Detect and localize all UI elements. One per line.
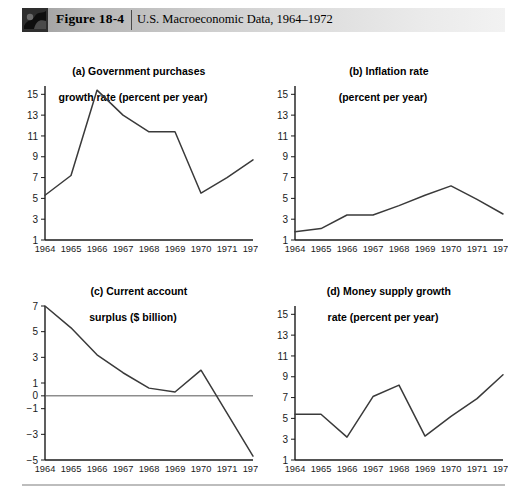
svg-text:3: 3 bbox=[282, 434, 288, 445]
svg-text:1966: 1966 bbox=[337, 464, 358, 474]
svg-text:5: 5 bbox=[282, 193, 288, 204]
svg-text:9: 9 bbox=[282, 371, 288, 382]
svg-text:5: 5 bbox=[32, 193, 38, 204]
chart-panel-d: (d) Money supply growth rate (percent pe… bbox=[258, 272, 508, 482]
figure-caption: U.S. Macroeconomic Data, 1964–1972 bbox=[137, 12, 333, 27]
svg-text:1966: 1966 bbox=[87, 244, 108, 254]
svg-text:13: 13 bbox=[27, 110, 39, 121]
chart-panel-a: (a) Government purchases growth rate (pe… bbox=[8, 52, 258, 262]
chart-panel-c: (c) Current account surplus ($ billion) … bbox=[8, 272, 258, 482]
svg-text:11: 11 bbox=[28, 131, 39, 142]
svg-text:1965: 1965 bbox=[61, 464, 82, 474]
svg-text:1965: 1965 bbox=[311, 244, 332, 254]
svg-text:1966: 1966 bbox=[87, 464, 108, 474]
svg-text:1969: 1969 bbox=[415, 464, 436, 474]
svg-text:1971: 1971 bbox=[217, 244, 238, 254]
footer-rule bbox=[22, 484, 505, 486]
svg-text:1969: 1969 bbox=[415, 244, 436, 254]
chart-plot-d: 1357911131519641965196619671968196919701… bbox=[258, 300, 508, 482]
svg-text:7: 7 bbox=[32, 301, 38, 312]
svg-text:7: 7 bbox=[282, 172, 288, 183]
svg-text:3: 3 bbox=[282, 214, 288, 225]
figure-label: Figure 18-4 bbox=[56, 11, 124, 27]
svg-text:7: 7 bbox=[282, 392, 288, 403]
svg-text:15: 15 bbox=[277, 309, 289, 320]
svg-text:1964: 1964 bbox=[35, 244, 56, 254]
svg-text:1967: 1967 bbox=[113, 464, 134, 474]
svg-text:1966: 1966 bbox=[337, 244, 358, 254]
svg-text:0: 0 bbox=[32, 390, 38, 401]
svg-text:−1: −1 bbox=[27, 403, 39, 414]
svg-text:1968: 1968 bbox=[139, 244, 160, 254]
svg-text:1965: 1965 bbox=[61, 244, 82, 254]
svg-text:3: 3 bbox=[32, 352, 38, 363]
svg-text:7: 7 bbox=[32, 172, 38, 183]
svg-text:1971: 1971 bbox=[467, 244, 488, 254]
svg-text:11: 11 bbox=[278, 131, 289, 142]
chart-title-a-line1: (a) Government purchases bbox=[72, 65, 205, 77]
chart-title-b-line1: (b) Inflation rate bbox=[349, 65, 428, 77]
svg-text:1972: 1972 bbox=[493, 244, 508, 254]
svg-text:1965: 1965 bbox=[311, 464, 332, 474]
header-divider bbox=[131, 10, 132, 30]
svg-text:1972: 1972 bbox=[493, 464, 508, 474]
svg-text:1972: 1972 bbox=[243, 244, 258, 254]
svg-text:9: 9 bbox=[282, 151, 288, 162]
svg-text:9: 9 bbox=[32, 151, 38, 162]
chart-title-c-line1: (c) Current account bbox=[90, 285, 187, 297]
svg-text:1971: 1971 bbox=[467, 464, 488, 474]
svg-text:1967: 1967 bbox=[113, 244, 134, 254]
svg-text:11: 11 bbox=[278, 351, 289, 362]
svg-text:1964: 1964 bbox=[285, 464, 306, 474]
svg-text:1967: 1967 bbox=[363, 464, 384, 474]
svg-text:1970: 1970 bbox=[441, 244, 462, 254]
svg-text:1968: 1968 bbox=[389, 464, 410, 474]
svg-text:1970: 1970 bbox=[191, 244, 212, 254]
svg-text:1970: 1970 bbox=[191, 464, 212, 474]
chart-plot-b: 1357911131519641965196619671968196919701… bbox=[258, 80, 508, 262]
svg-text:3: 3 bbox=[32, 214, 38, 225]
svg-text:13: 13 bbox=[277, 110, 289, 121]
svg-text:1971: 1971 bbox=[217, 464, 238, 474]
svg-text:1967: 1967 bbox=[363, 244, 384, 254]
chart-title-d-line1: (d) Money supply growth bbox=[327, 285, 451, 297]
chart-plot-a: 1357911131519641965196619671968196919701… bbox=[8, 80, 258, 262]
svg-text:1968: 1968 bbox=[139, 464, 160, 474]
svg-text:−3: −3 bbox=[27, 429, 39, 440]
svg-text:1968: 1968 bbox=[389, 244, 410, 254]
svg-text:15: 15 bbox=[27, 89, 39, 100]
svg-text:1: 1 bbox=[32, 378, 38, 389]
svg-text:15: 15 bbox=[277, 89, 289, 100]
chart-panel-b: (b) Inflation rate (percent per year) 13… bbox=[258, 52, 508, 262]
svg-text:1970: 1970 bbox=[441, 464, 462, 474]
svg-text:1964: 1964 bbox=[35, 464, 56, 474]
svg-text:5: 5 bbox=[32, 326, 38, 337]
svg-text:13: 13 bbox=[277, 330, 289, 341]
svg-text:1964: 1964 bbox=[285, 244, 306, 254]
chart-plot-c: −5−3−10135719641965196619671968196919701… bbox=[8, 300, 258, 482]
svg-text:1969: 1969 bbox=[165, 464, 186, 474]
svg-text:1972: 1972 bbox=[243, 464, 258, 474]
svg-text:5: 5 bbox=[282, 413, 288, 424]
svg-text:1969: 1969 bbox=[165, 244, 186, 254]
book-thumbnail-icon bbox=[22, 8, 48, 32]
